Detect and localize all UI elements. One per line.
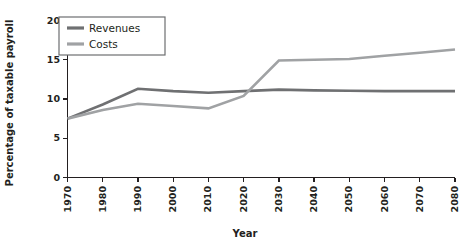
series-line-costs [68, 50, 456, 119]
x-tick-label: 2080 [449, 186, 460, 213]
y-tick-label: 15 [47, 54, 60, 65]
x-tick-label: 1970 [62, 186, 73, 213]
y-tick-label: 5 [53, 132, 60, 143]
chart-container: Percentage of taxable payroll Year 05101… [0, 0, 467, 250]
chart-legend: RevenuesCosts [59, 17, 165, 55]
x-tick-label: 2050 [343, 186, 354, 213]
x-tick-label: 2030 [273, 186, 284, 213]
x-tick-label: 2060 [379, 186, 390, 213]
line-chart: Percentage of taxable payroll Year 05101… [0, 0, 467, 250]
x-tick-label: 2070 [414, 186, 425, 213]
x-tick-label: 2040 [308, 186, 319, 213]
x-tick-label: 2000 [167, 186, 178, 213]
data-series-group [68, 50, 456, 119]
x-tick-label: 2010 [202, 186, 213, 213]
x-axis-ticks: 1970198019902000201020202030204020502060… [62, 178, 461, 213]
x-tick-label: 1980 [97, 186, 108, 213]
x-tick-label: 1990 [132, 186, 143, 213]
y-tick-label: 0 [53, 172, 60, 183]
x-axis-title: Year [232, 228, 258, 239]
legend-label-revenues: Revenues [89, 22, 140, 34]
y-axis-title: Percentage of taxable payroll [4, 20, 15, 187]
x-axis-title-text: Year [232, 228, 258, 239]
x-tick-label: 2020 [238, 186, 249, 213]
legend-label-costs: Costs [89, 38, 118, 50]
y-tick-label: 20 [47, 15, 61, 26]
series-line-revenues [68, 89, 456, 119]
y-axis-title-text: Percentage of taxable payroll [4, 20, 15, 187]
y-tick-label: 10 [47, 93, 61, 104]
